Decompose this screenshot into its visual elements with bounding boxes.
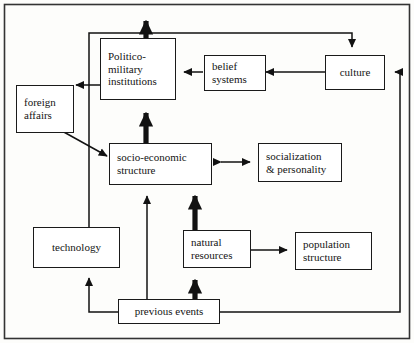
node-label-line: population [303, 238, 350, 251]
node-previous-events[interactable]: previous events [118, 299, 220, 324]
node-label-line: military [108, 63, 143, 76]
edge-foreign-to-socioeconomic [62, 131, 107, 156]
edge-previous-to-technology [89, 278, 118, 312]
node-belief-systems[interactable]: belief systems [204, 55, 266, 91]
node-population-structure[interactable]: population structure [295, 232, 372, 270]
edge-previous-to-culture [220, 72, 400, 312]
node-culture[interactable]: culture [325, 55, 385, 90]
node-label-line: belief [212, 60, 237, 73]
node-label-line: culture [340, 66, 371, 79]
node-label-line: previous events [135, 305, 204, 318]
node-label-line: natural [191, 236, 222, 249]
node-label-line: foreign [24, 96, 56, 109]
node-technology[interactable]: technology [33, 227, 120, 268]
node-label-line: affairs [24, 109, 52, 122]
node-foreign-affairs[interactable]: foreign affairs [16, 85, 74, 133]
node-label-line: Politico- [108, 50, 146, 63]
node-label-line: systems [212, 73, 247, 86]
diagram-canvas: Politico- military institutions belief s… [0, 0, 414, 343]
node-socio-economic-structure[interactable]: socio-economic structure [109, 143, 212, 185]
node-politico-military-institutions[interactable]: Politico- military institutions [100, 38, 176, 100]
node-natural-resources[interactable]: natural resources [183, 230, 251, 268]
node-label-line: institutions [108, 75, 157, 88]
node-label-line: socio-economic [117, 151, 187, 164]
node-label-line: socialization [266, 150, 322, 163]
node-label-line: structure [117, 164, 155, 177]
node-label-line: resources [191, 249, 233, 262]
node-label-line: & personality [266, 163, 326, 176]
node-label-line: structure [303, 251, 341, 264]
node-label-line: technology [52, 241, 101, 254]
node-socialization-personality[interactable]: socialization & personality [258, 143, 342, 182]
